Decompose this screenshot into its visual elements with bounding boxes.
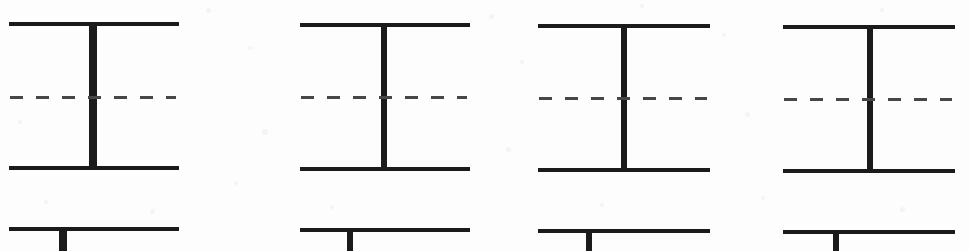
panel-4-center-line [784, 98, 952, 101]
scan-speck [248, 46, 252, 50]
scan-speck [640, 4, 644, 8]
panel-2-center-line [301, 96, 467, 99]
panel-1-partial-stem [59, 229, 67, 251]
scan-speck [761, 196, 765, 200]
scan-speck [506, 147, 511, 152]
scan-speck [44, 200, 48, 204]
panel-3-center-line [539, 97, 707, 100]
panel-4-partial-flange [783, 230, 955, 234]
scan-speck [900, 207, 905, 212]
scan-speck [520, 60, 524, 64]
panel-2-partial-flange [300, 228, 470, 232]
panel-3-partial-flange [538, 229, 710, 233]
scan-speck [262, 129, 268, 135]
panel-1-partial-flange [9, 227, 179, 231]
scan-speck [206, 8, 211, 13]
scan-speck [489, 14, 494, 19]
panel-1-center-line [10, 96, 176, 99]
scan-speck [18, 120, 22, 124]
scan-speck [600, 203, 604, 207]
panel-3-partial-stem [586, 231, 592, 251]
scan-speck [234, 181, 238, 185]
scan-speck [880, 8, 884, 12]
panel-4-partial-stem [833, 232, 839, 251]
scan-speck [722, 33, 726, 37]
scan-speck [330, 205, 334, 209]
scan-speck [150, 209, 155, 214]
scan-speck [745, 112, 750, 117]
panel-2-partial-stem [347, 230, 353, 251]
figure-canvas [0, 0, 970, 251]
